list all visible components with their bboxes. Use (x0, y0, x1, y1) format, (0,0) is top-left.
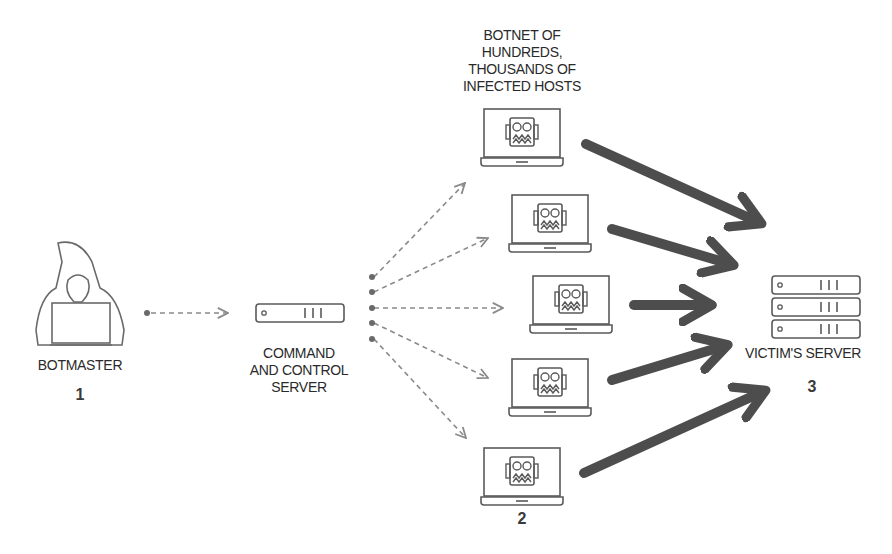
botmaster-label: BOTMASTER (10, 357, 150, 374)
attack-arrows (584, 144, 762, 473)
botnet-label-line-4: INFECTED HOSTS (440, 78, 604, 95)
step-2-number: 2 (512, 510, 532, 528)
step-1-number: 1 (70, 386, 90, 404)
infected-laptop-icon (509, 195, 591, 252)
cnc-label-line-3: SERVER (234, 379, 364, 396)
fanout-dots (369, 274, 375, 342)
infected-laptop-icon (481, 448, 563, 505)
infected-laptop-icon (481, 109, 563, 166)
botnet-label-line-3: THOUSANDS OF (440, 61, 604, 78)
botnet-label-line-2: HUNDREDS, (440, 44, 604, 61)
botmaster-to-cnc-arrow (144, 310, 228, 316)
step-3-number: 3 (802, 378, 822, 396)
infected-laptop-icon (530, 276, 612, 333)
botnet-label: BOTNET OF HUNDREDS, THOUSANDS OF INFECTE… (440, 27, 604, 95)
cnc-label: COMMAND AND CONTROL SERVER (234, 345, 364, 396)
infected-laptop-icon (509, 359, 591, 416)
cnc-label-line-2: AND CONTROL (234, 362, 364, 379)
cnc-label-line-1: COMMAND (234, 345, 364, 362)
server-stack-icon (772, 276, 860, 338)
hooded-hacker-icon (36, 242, 124, 345)
cnc-to-bots-arrows (374, 183, 503, 438)
victim-server-label: VICTIM'S SERVER (738, 345, 868, 362)
botnet-label-line-1: BOTNET OF (440, 27, 604, 44)
cnc-server-icon (256, 304, 344, 322)
